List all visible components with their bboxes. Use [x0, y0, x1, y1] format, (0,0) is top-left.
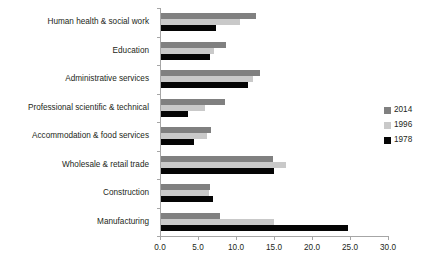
bar-chart: Human health & social workEducationAdmin…: [0, 0, 428, 274]
x-axis-tick-label: 30.0: [380, 243, 396, 252]
legend-swatch-icon: [384, 137, 391, 144]
legend-label: 1996: [394, 121, 412, 129]
bar-group: [161, 94, 389, 123]
x-axis-tick-label: 0.0: [154, 243, 165, 252]
bar-1978: [161, 82, 248, 88]
x-axis-tick-label: 5.0: [192, 243, 203, 252]
x-axis-tick: [388, 236, 389, 240]
x-axis-tick: [160, 236, 161, 240]
x-axis-tick-label: 15.0: [266, 243, 282, 252]
category-label: Accommodation & food services: [0, 122, 155, 151]
category-label: Administrative services: [0, 65, 155, 94]
x-axis-tick: [274, 236, 275, 240]
legend-item-1996[interactable]: 1996: [384, 121, 428, 129]
bar-1978: [161, 196, 213, 202]
category-axis-labels: Human health & social workEducationAdmin…: [0, 8, 155, 236]
legend-swatch-icon: [384, 107, 391, 114]
bar-group: [161, 37, 389, 66]
x-axis-tick-label: 20.0: [304, 243, 320, 252]
bar-group: [161, 151, 389, 180]
x-axis-tick: [350, 236, 351, 240]
legend-label: 1978: [394, 136, 412, 144]
category-label: Professional scientific & technical: [0, 94, 155, 123]
legend-item-2014[interactable]: 2014: [384, 106, 428, 114]
x-axis-ticks: [160, 236, 388, 240]
x-axis-tick-labels: 0.05.010.015.020.025.030.0: [160, 243, 388, 257]
legend-item-1978[interactable]: 1978: [384, 136, 428, 144]
legend: 201419961978: [384, 106, 428, 145]
bar-group: [161, 179, 389, 208]
bar-groups: [161, 8, 389, 236]
bar-1978: [161, 139, 194, 145]
bar-group: [161, 8, 389, 37]
plot-area: [160, 8, 389, 236]
bar-group: [161, 208, 389, 237]
legend-swatch-icon: [384, 122, 391, 129]
x-axis-tick: [198, 236, 199, 240]
bar-1978: [161, 168, 274, 174]
x-axis-tick: [236, 236, 237, 240]
x-axis-tick-label: 10.0: [228, 243, 244, 252]
bar-group: [161, 65, 389, 94]
category-label: Construction: [0, 179, 155, 208]
x-axis-tick: [312, 236, 313, 240]
category-label: Manufacturing: [0, 208, 155, 237]
bar-1978: [161, 225, 348, 231]
category-label: Wholesale & retail trade: [0, 151, 155, 180]
x-axis-tick-label: 25.0: [342, 243, 358, 252]
legend-label: 2014: [394, 106, 412, 114]
bar-1978: [161, 54, 210, 60]
bar-1978: [161, 111, 188, 117]
category-label: Human health & social work: [0, 8, 155, 37]
category-label: Education: [0, 37, 155, 66]
bar-group: [161, 122, 389, 151]
bar-1978: [161, 25, 216, 31]
